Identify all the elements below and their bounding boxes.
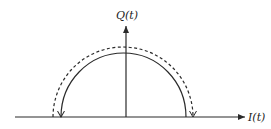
q-axis-label: Q(t)	[116, 9, 138, 22]
dashed-trajectory	[53, 47, 193, 117]
i-axis-label: I(t)	[247, 111, 265, 124]
iq-diagram: Q(t) I(t)	[0, 0, 271, 129]
